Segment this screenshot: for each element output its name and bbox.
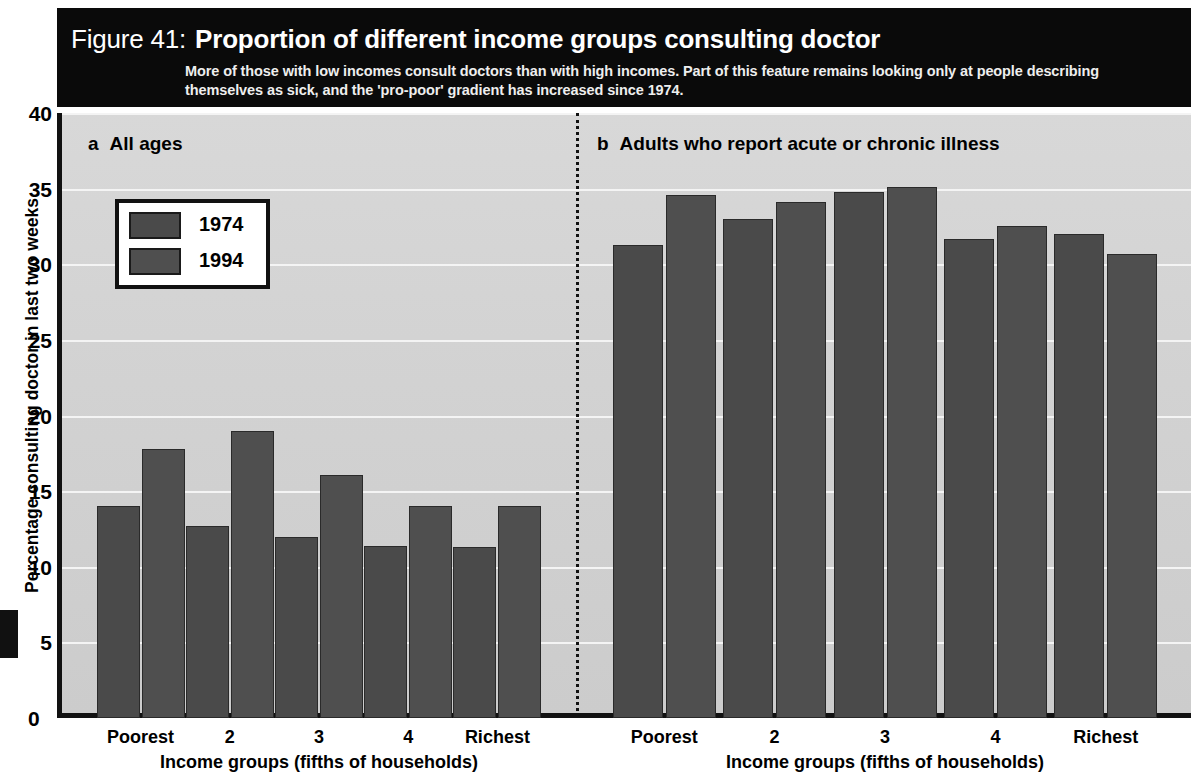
legend-swatch-1994	[129, 248, 181, 275]
bar-b-4-1974	[944, 239, 994, 718]
legend-label-1974: 1974	[199, 213, 244, 236]
x-axis-title-panel-a: Income groups (fifths of households)	[62, 752, 576, 773]
bar-b-3-1974	[834, 192, 884, 718]
x-axis-categories-panel-b: Poorest234Richest	[579, 727, 1191, 753]
bar-a-4-1994	[409, 506, 452, 718]
bar-a-2-1994	[231, 431, 274, 718]
legend-swatch-1974	[129, 212, 181, 239]
bar-b-poorest-1974	[613, 245, 663, 718]
figure-title: Proportion of different income groups co…	[195, 24, 880, 54]
x-category-2: 2	[185, 727, 274, 748]
legend-item-1994: 1994	[129, 248, 263, 276]
bar-a-3-1994	[320, 475, 363, 719]
y-axis-title: Percentage consulting doctor in last two…	[22, 111, 43, 681]
panel-all-ages: aAll ages 1974 1994	[62, 113, 576, 718]
bar-a-4-1974	[364, 546, 407, 718]
x-category-4: 4	[940, 727, 1050, 748]
legend-label-1994: 1994	[199, 249, 244, 272]
y-axis-zero-tick: 0	[28, 707, 40, 731]
bar-a-richest-1994	[498, 506, 541, 718]
x-category-3: 3	[830, 727, 940, 748]
bar-a-poorest-1974	[97, 506, 140, 718]
bar-b-2-1994	[776, 202, 826, 718]
panel-adults-illness: bAdults who report acute or chronic illn…	[579, 113, 1191, 718]
figure-header-line: Figure 41:Proportion of different income…	[71, 24, 880, 55]
bar-b-richest-1994	[1107, 254, 1157, 718]
bar-b-poorest-1994	[666, 195, 716, 718]
bar-b-4-1994	[997, 226, 1047, 718]
figure-number: Figure 41:	[71, 24, 186, 54]
legend-item-1974: 1974	[129, 212, 263, 240]
x-category-richest: Richest	[453, 727, 542, 748]
bar-a-3-1974	[275, 537, 318, 719]
bar-a-richest-1974	[453, 547, 496, 718]
legend-box: 1974 1994	[115, 199, 270, 289]
bar-b-richest-1974	[1054, 234, 1104, 718]
x-category-3: 3	[274, 727, 363, 748]
panel-b-bars	[579, 113, 1191, 718]
x-category-4: 4	[364, 727, 453, 748]
x-category-poorest: Poorest	[96, 727, 185, 748]
x-category-poorest: Poorest	[609, 727, 719, 748]
x-category-richest: Richest	[1051, 727, 1161, 748]
bar-b-3-1994	[887, 187, 937, 718]
figure-container: Figure 41:Proportion of different income…	[0, 0, 1191, 777]
bar-a-poorest-1994	[142, 449, 185, 718]
x-axis-categories-panel-a: Poorest234Richest	[62, 727, 576, 753]
bar-b-2-1974	[723, 219, 773, 718]
figure-subtitle: More of those with low incomes consult d…	[185, 62, 1175, 100]
x-axis-title-panel-b: Income groups (fifths of households)	[579, 752, 1191, 773]
bar-a-2-1974	[186, 526, 229, 718]
figure-header-band: Figure 41:Proportion of different income…	[57, 8, 1191, 107]
x-category-2: 2	[719, 727, 829, 748]
